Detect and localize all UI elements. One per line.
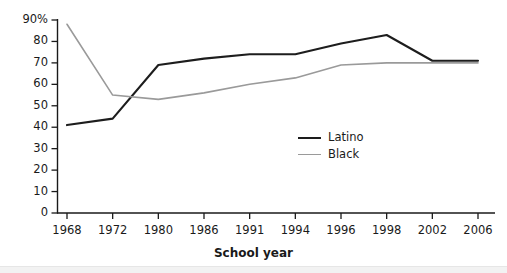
x-axis-tick-label: 1980 — [135, 223, 181, 237]
x-axis-title: School year — [0, 246, 507, 260]
y-axis-tick-label: 0 — [8, 205, 48, 219]
y-axis-tick-label: 20 — [8, 162, 48, 176]
legend-item-latino: Latino — [298, 129, 408, 146]
y-axis-tick-label: 60 — [8, 76, 48, 90]
y-axis-ticks — [52, 20, 58, 213]
x-axis-tick-label: 1996 — [318, 223, 364, 237]
x-axis-tick-label: 1972 — [90, 223, 136, 237]
legend-line-swatch-latino — [298, 137, 321, 139]
y-axis-tick-label: 30 — [8, 141, 48, 155]
y-axis-tick-label: 70 — [8, 55, 48, 69]
legend-label-black: Black — [328, 148, 359, 161]
page-bottom-band — [0, 266, 507, 273]
x-axis-tick-label: 1968 — [44, 223, 90, 237]
y-axis-tick-label: 80 — [8, 33, 48, 47]
x-axis-tick-label: 2006 — [455, 223, 501, 237]
legend-item-black: Black — [298, 146, 408, 163]
legend-line-swatch-black — [298, 154, 321, 155]
series-line-latino — [67, 35, 478, 125]
y-axis-tick-label: 90% — [8, 12, 48, 26]
x-axis-tick-label: 1986 — [181, 223, 227, 237]
axis-lines — [57, 19, 495, 214]
x-axis-tick-label: 2002 — [409, 223, 455, 237]
x-axis-tick-label: 1991 — [227, 223, 273, 237]
x-axis-tick-label: 1998 — [364, 223, 410, 237]
x-axis-tick-label: 1994 — [272, 223, 318, 237]
y-axis-tick-label: 10 — [8, 184, 48, 198]
series-line-black — [67, 24, 478, 99]
chart-legend: Latino Black — [298, 129, 408, 163]
y-axis-tick-label: 40 — [8, 119, 48, 133]
y-axis-tick-label: 50 — [8, 98, 48, 112]
x-axis-ticks — [67, 213, 478, 219]
series-lines — [67, 24, 478, 125]
legend-label-latino: Latino — [328, 131, 363, 144]
